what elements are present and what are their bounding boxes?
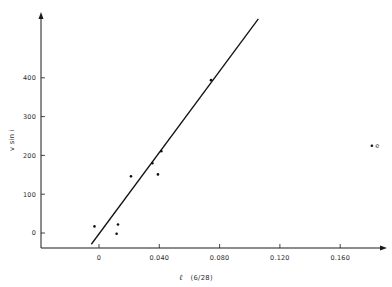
y-tick-label: 0 [32, 229, 36, 237]
x-ticks: 00.0400.0800.1200.160 [97, 244, 350, 262]
y-tick-label: 400 [23, 74, 36, 82]
x-tick: 0.160 [330, 244, 350, 262]
data-point [151, 162, 154, 165]
x-tick: 0 [97, 244, 101, 262]
x-tick: 0.080 [210, 244, 230, 262]
data-point [93, 225, 96, 228]
y-axis-arrow-icon [39, 12, 44, 19]
y-tick-label: 200 [23, 152, 36, 160]
y-axis [39, 12, 44, 248]
x-tick: 0.120 [270, 244, 290, 262]
x-axis-arrow-icon [380, 246, 387, 251]
y-tick: 300 [23, 113, 45, 121]
data-point [157, 173, 160, 176]
y-tick-label: 300 [23, 113, 36, 121]
y-tick-label: 100 [23, 191, 36, 199]
y-ticks: 0100200300400 [23, 74, 45, 237]
x-axis-label: ℓ (6/28) [179, 265, 213, 284]
x-axis-label-text: (6/28) [191, 274, 213, 282]
x-axis [41, 246, 387, 251]
x-tick-label: 0.160 [330, 254, 350, 262]
regression-line [91, 19, 258, 244]
svg-text:ℓ (6/28): ℓ (6/28) [179, 265, 213, 284]
point-label: e [375, 142, 379, 150]
y-tick: 0 [32, 229, 45, 237]
y-axis-label: v sin i [8, 129, 16, 151]
data-point [160, 150, 163, 153]
data-point [371, 144, 374, 147]
data-points: e [93, 79, 379, 235]
fit-line [91, 19, 258, 244]
x-tick-label: 0.080 [210, 254, 230, 262]
data-point [130, 175, 133, 178]
data-point [117, 223, 120, 226]
y-tick: 400 [23, 74, 45, 82]
y-tick: 200 [23, 152, 45, 160]
data-point [210, 79, 213, 82]
scatter-chart: 0100200300400 00.0400.0800.1200.160 v si… [0, 0, 392, 287]
x-tick: 0.040 [149, 244, 169, 262]
data-point [115, 232, 118, 235]
x-tick-label: 0.040 [149, 254, 169, 262]
x-tick-label: 0.120 [270, 254, 290, 262]
x-tick-label: 0 [97, 254, 101, 262]
x-axis-label-symbol: ℓ [179, 273, 183, 282]
y-tick: 100 [23, 191, 45, 199]
